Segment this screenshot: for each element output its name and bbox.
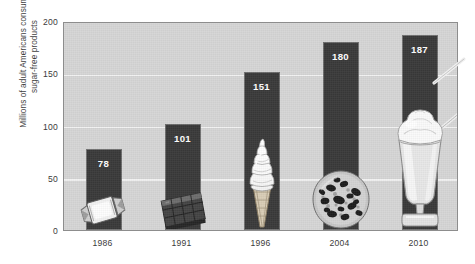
x-axis-tick-label: 2004 — [315, 238, 365, 248]
bar: 180 — [323, 42, 359, 230]
bar-value-label: 78 — [86, 158, 122, 169]
bar-value-label: 151 — [244, 81, 280, 92]
y-axis-tick-label: 100 — [24, 122, 58, 132]
y-axis-tick-label: 150 — [24, 69, 58, 79]
x-axis-tick-label: 1996 — [236, 238, 286, 248]
bar: 101 — [165, 124, 201, 230]
x-axis-ticks: 19861991199620042010 — [63, 238, 458, 254]
bar: 187 — [402, 35, 438, 230]
bar: 78 — [86, 149, 122, 231]
x-axis-tick-label: 2010 — [394, 238, 444, 248]
y-axis-ticks: 050100150200 — [22, 0, 58, 264]
y-axis-tick-label: 200 — [24, 17, 58, 27]
bar-value-label: 187 — [402, 44, 438, 55]
bar-chart: Millions of adult Americans consuming su… — [0, 0, 475, 264]
x-axis-tick-label: 1986 — [78, 238, 128, 248]
y-axis-tick-label: 50 — [24, 174, 58, 184]
bar-value-label: 180 — [323, 51, 359, 62]
y-axis-tick-label: 0 — [24, 226, 58, 236]
bar-value-label: 101 — [165, 133, 201, 144]
plot-inner: 78101151180187 — [64, 23, 457, 230]
x-axis-tick-label: 1991 — [157, 238, 207, 248]
plot-area: 78101151180187 — [63, 22, 458, 231]
bar: 151 — [244, 72, 280, 230]
